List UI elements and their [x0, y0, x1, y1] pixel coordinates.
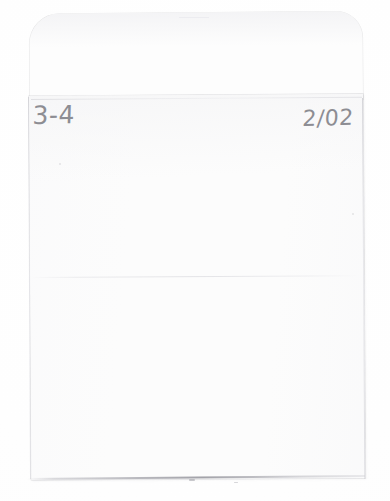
scan-speck: [179, 17, 209, 18]
envelope-flap: [29, 11, 363, 102]
scanned-envelope-page: 3-4 2/02: [0, 0, 390, 501]
scan-speck: [352, 213, 354, 215]
scan-speck: [189, 479, 195, 481]
envelope-body: [29, 94, 365, 480]
scan-speck: [234, 482, 238, 483]
handwritten-right-date: 2/02: [302, 107, 355, 130]
handwritten-left-label: 3-4: [32, 102, 75, 128]
scan-speck: [59, 163, 61, 165]
